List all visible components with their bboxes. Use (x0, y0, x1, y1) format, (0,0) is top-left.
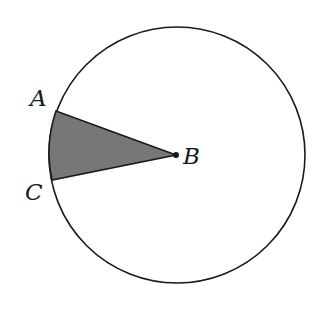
label-b: B (182, 143, 200, 169)
shaded-sector-ABC (49, 111, 176, 180)
label-c: C (25, 179, 43, 205)
point-b-dot (173, 152, 179, 158)
sector-diagram: A B C (0, 0, 321, 311)
label-a: A (28, 85, 47, 111)
